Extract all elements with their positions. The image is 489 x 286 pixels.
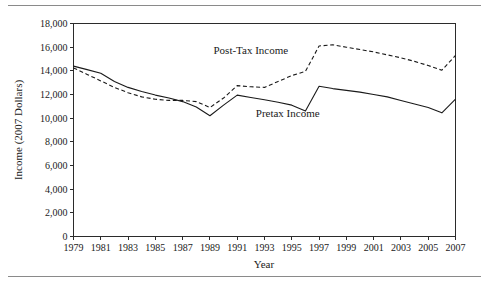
y-tick-label: 12,000 [40,89,68,100]
x-tick-label: 2007 [446,242,466,253]
x-tick-label: 1993 [255,242,275,253]
x-tick-label: 2003 [391,242,411,253]
y-tick-label: 0 [63,231,68,242]
y-tick-label: 18,000 [40,18,68,29]
y-tick-label: 8,000 [45,136,68,147]
y-axis-ticks: 02,0004,0006,0008,00010,00012,00014,0001… [40,18,74,242]
x-tick-label: 2001 [364,242,384,253]
y-tick-label: 14,000 [40,65,68,76]
x-tick-label: 1987 [173,242,193,253]
y-tick-label: 4,000 [45,184,68,195]
series-annotations: Post-Tax IncomePretax Income [214,44,320,119]
x-tick-label: 1997 [309,242,329,253]
x-tick-label: 1991 [227,242,247,253]
figure-container: 02,0004,0006,0008,00010,00012,00014,0001… [0,0,489,286]
chart-svg: 02,0004,0006,0008,00010,00012,00014,0001… [0,0,489,286]
x-tick-label: 2005 [418,242,438,253]
x-tick-label: 1981 [91,242,111,253]
x-tick-label: 1983 [118,242,138,253]
x-tick-label: 1989 [200,242,220,253]
x-axis-title: Year [254,258,275,270]
line-chart: 02,0004,0006,0008,00010,00012,00014,0001… [0,0,489,286]
x-tick-label: 1995 [282,242,302,253]
y-tick-label: 2,000 [45,207,68,218]
x-axis-ticks: 1979198119831985198719891991199319951997… [64,237,466,254]
y-tick-label: 6,000 [45,160,68,171]
x-tick-label: 1985 [145,242,165,253]
annotation-pretax-income: Pretax Income [256,107,320,119]
annotation-post-tax-income: Post-Tax Income [214,44,289,56]
x-tick-label: 1999 [336,242,356,253]
x-tick-label: 1979 [64,242,84,253]
y-tick-label: 10,000 [40,113,68,124]
y-tick-label: 16,000 [40,42,68,53]
y-axis-title: Income (2007 Dollars) [12,80,25,181]
